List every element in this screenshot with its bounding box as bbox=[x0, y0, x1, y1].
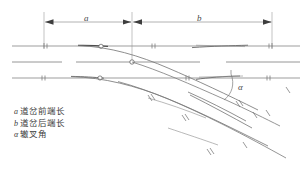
angle-label-alpha: α bbox=[238, 82, 243, 92]
legend-item-alpha: α辙叉角 bbox=[14, 126, 134, 138]
diverging-closure-rail bbox=[148, 98, 206, 118]
diverging-track-group bbox=[71, 46, 286, 158]
legend: a道岔前端长 b道岔后端长 α辙叉角 bbox=[14, 103, 134, 138]
legend-item-b: b道岔后端长 bbox=[14, 115, 134, 127]
angle-alpha-marker bbox=[224, 70, 233, 100]
legend-text-alpha: 辙叉角 bbox=[20, 129, 47, 139]
dimension-label-a: a bbox=[84, 13, 89, 23]
upper-main-rail-group bbox=[12, 43, 300, 49]
legend-symbol-alpha: α bbox=[14, 130, 18, 139]
dimension-label-b: b bbox=[197, 13, 202, 23]
diverging-rail-inner-lead bbox=[118, 82, 286, 158]
diverging-guard-rail bbox=[168, 128, 218, 145]
turnout-schematic-svg bbox=[0, 0, 307, 170]
turnout-diagram-figure: a b α a道岔前端长 b道岔后端长 α辙叉角 bbox=[0, 0, 307, 170]
legend-item-a: a道岔前端长 bbox=[14, 103, 134, 115]
lower-main-rail-group bbox=[12, 76, 300, 81]
dimension-extension-lines bbox=[44, 12, 272, 64]
